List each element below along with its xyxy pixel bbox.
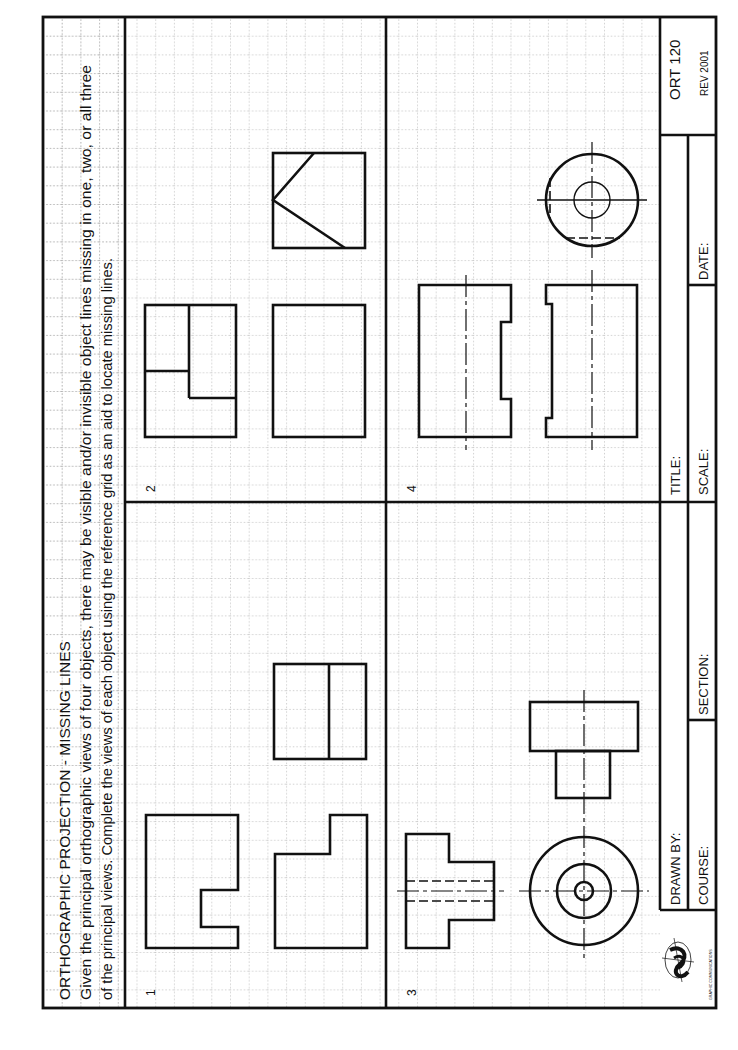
problem-number-4: 4: [405, 485, 419, 492]
drawn-by-field[interactable]: [662, 505, 687, 908]
reference-grid: [43, 17, 660, 1008]
section-field[interactable]: [690, 505, 715, 718]
instructions-line-1: Given the principal orthographic views o…: [78, 65, 94, 1000]
scale-field[interactable]: [690, 287, 715, 499]
date-field[interactable]: [690, 137, 715, 283]
problem-number-3: 3: [405, 989, 419, 996]
logo-caption: GRAPHIC COMMUNICATIONS: [709, 949, 713, 1000]
problem-number-1: 1: [144, 989, 158, 996]
instructions-line-2: of the principal views. Complete the vie…: [99, 258, 115, 1000]
drawing-sheet: ORTHOGRAPHIC PROJECTION - MISSING LINES …: [0, 0, 738, 1050]
title-field[interactable]: [662, 137, 687, 499]
sheet-code: ORT 120: [666, 40, 683, 100]
sheet-revision: REV 2001: [699, 50, 710, 96]
problem-number-2: 2: [144, 485, 158, 492]
course-field[interactable]: [690, 722, 715, 908]
sheet-heading: ORTHOGRAPHIC PROJECTION - MISSING LINES: [56, 641, 73, 1000]
